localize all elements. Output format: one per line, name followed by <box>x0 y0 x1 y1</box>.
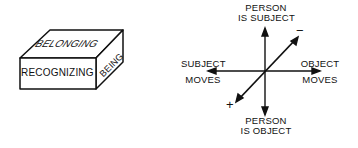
axis-bottom-line2: IS OBJECT <box>238 126 294 136</box>
axis-bottom-label: PERSON IS OBJECT <box>238 116 294 136</box>
axis-top-label: PERSON IS SUBJECT <box>238 3 294 23</box>
axis-top-line2: IS SUBJECT <box>238 13 294 23</box>
axis-left-line1: SUBJECT <box>181 59 225 69</box>
box-front-label: RECOGNIZING <box>21 68 94 78</box>
minus-sign: − <box>296 26 304 36</box>
axis-left-line2: MOVES <box>181 75 225 85</box>
axis-right-line2: MOVES <box>298 75 342 85</box>
box-top-label: BELONGING <box>34 39 100 49</box>
axis-left-label: SUBJECT MOVES <box>181 59 225 85</box>
axis-right-label: OBJECT MOVES <box>298 59 342 85</box>
plus-sign: + <box>226 100 234 110</box>
axis-right-line1: OBJECT <box>298 59 342 69</box>
